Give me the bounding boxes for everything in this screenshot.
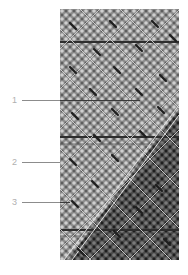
callout-leader-1-inner	[60, 100, 140, 101]
callout-leader-3-inner	[60, 202, 70, 203]
callout-leader-1	[22, 100, 60, 101]
patterned-panel	[60, 9, 179, 260]
callout-label-2: 2	[12, 158, 17, 167]
patent-figure: 1 2 3	[0, 0, 188, 275]
callout-leader-2	[22, 162, 60, 163]
callout-leader-3	[22, 202, 62, 203]
callout-label-3: 3	[12, 198, 17, 207]
pattern-graphic	[60, 9, 179, 260]
callout-label-1: 1	[12, 96, 17, 105]
